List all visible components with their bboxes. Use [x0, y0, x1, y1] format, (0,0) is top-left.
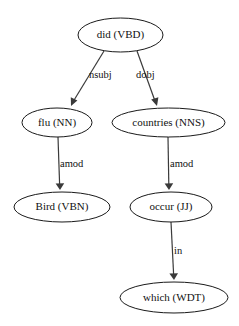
node-group: did (VBD) flu (NN) countries (NNS) Bird …: [14, 18, 228, 313]
arrowhead-in: [169, 273, 178, 280]
edge-group: nsubj dobj amod amod in: [56, 51, 194, 280]
node-label-did: did (VBD): [97, 28, 145, 41]
node-label-occur: occur (JJ): [149, 200, 192, 213]
node-did[interactable]: did (VBD): [78, 18, 163, 52]
edge-flu-bird: amod: [56, 137, 84, 190]
edge-did-countries: dobj: [136, 51, 158, 106]
node-label-flu: flu (NN): [38, 116, 77, 129]
edge-line-amod-right: [168, 137, 169, 184]
node-bird[interactable]: Bird (VBN): [14, 192, 110, 222]
edge-did-flu: nsubj: [71, 51, 112, 106]
node-label-countries: countries (NNS): [132, 116, 205, 129]
node-which[interactable]: which (WDT): [120, 282, 228, 313]
node-occur[interactable]: occur (JJ): [130, 192, 212, 222]
edge-countries-occur: amod: [165, 137, 194, 190]
parse-tree-svg: nsubj dobj amod amod in: [0, 0, 239, 326]
edge-label-amod-left: amod: [60, 158, 84, 169]
node-countries[interactable]: countries (NNS): [112, 108, 225, 137]
edge-label-amod-right: amod: [170, 158, 194, 169]
node-label-which: which (WDT): [143, 291, 205, 304]
edge-occur-which: in: [169, 222, 183, 280]
edge-label-in: in: [174, 245, 183, 256]
edge-label-dobj: dobj: [136, 69, 155, 80]
node-flu[interactable]: flu (NN): [22, 108, 92, 137]
edge-label-nsubj: nsubj: [89, 69, 112, 80]
node-label-bird: Bird (VBN): [36, 200, 89, 213]
arrowhead-amod-right: [165, 183, 174, 190]
dependency-parse-diagram: nsubj dobj amod amod in: [0, 0, 239, 326]
arrowhead-amod-left: [56, 183, 65, 190]
arrowhead-dobj: [151, 97, 158, 106]
arrowhead-nsubj: [71, 97, 78, 106]
